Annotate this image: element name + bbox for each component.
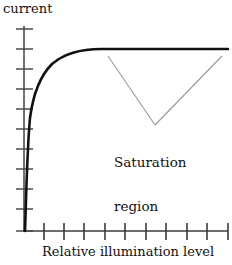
x-axis-label: Relative illumination level — [42, 245, 214, 259]
annotation-line-1: Saturation — [114, 155, 186, 170]
photodiode-saturation-chart: current Saturation region Relative illum… — [0, 0, 232, 265]
annotation-line-2: region — [114, 199, 186, 214]
y-axis-label: current — [3, 2, 52, 16]
saturation-region-annotation: Saturation region — [114, 126, 186, 243]
saturation-pointer-v — [108, 56, 222, 125]
